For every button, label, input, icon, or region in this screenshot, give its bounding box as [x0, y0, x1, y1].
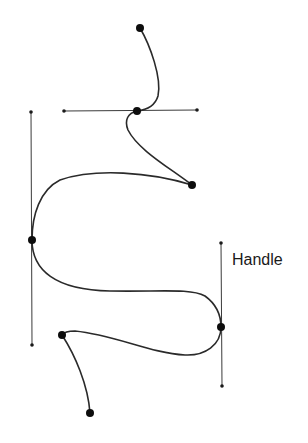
handle-end-horizontal-right[interactable]	[195, 108, 199, 112]
anchor-point-7[interactable]	[86, 409, 94, 417]
anchor-point-5[interactable]	[217, 323, 225, 331]
anchor-point-4[interactable]	[28, 236, 36, 244]
anchor-point-3[interactable]	[188, 181, 196, 189]
curve-segment-1	[137, 28, 159, 111]
handle-end-right-bottom[interactable]	[220, 384, 224, 388]
anchor-points	[28, 24, 225, 417]
handle-label: Handle	[232, 251, 283, 268]
handle-endpoints	[29, 108, 224, 388]
handle-end-left-bottom[interactable]	[30, 343, 34, 347]
curve-segment-6	[62, 335, 90, 413]
anchor-point-1[interactable]	[136, 24, 144, 32]
curve-segment-4	[32, 240, 221, 327]
handle-line-horizontal	[64, 110, 197, 111]
handle-end-right-top[interactable]	[219, 241, 223, 245]
handle-end-left-top[interactable]	[29, 110, 33, 114]
handle-line-right-vertical	[221, 243, 222, 386]
curve-segments	[32, 28, 221, 413]
anchor-point-2[interactable]	[133, 107, 141, 115]
anchor-point-6[interactable]	[58, 331, 66, 339]
handle-end-horizontal-left[interactable]	[62, 109, 66, 113]
curve-segment-5	[62, 327, 221, 355]
curve-segment-3	[32, 173, 192, 240]
handle-lines	[31, 110, 222, 386]
bezier-diagram: Handle	[0, 0, 308, 443]
